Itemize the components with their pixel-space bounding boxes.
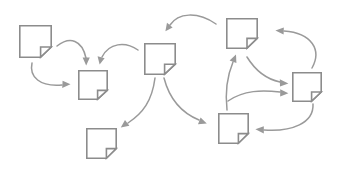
arrow-path	[102, 45, 138, 57]
page-fold-corner-icon	[238, 134, 248, 144]
page-fold-corner-icon	[165, 64, 176, 74]
document-node-7[interactable]	[87, 129, 116, 158]
arrow-doc5-to-doc6	[255, 104, 313, 133]
arrow-head-icon	[98, 56, 105, 64]
arrow-doc3-to-doc7	[121, 78, 155, 128]
arrow-doc1-to-doc2-left	[32, 63, 71, 88]
diagram-svg	[0, 0, 349, 173]
arrow-doc4-to-doc5-upper	[247, 57, 288, 86]
arrow-doc3-to-doc6	[164, 78, 207, 124]
arrow-head-icon	[83, 57, 90, 65]
page-fold-corner-icon	[247, 38, 257, 48]
arrow-head-icon	[255, 126, 263, 133]
arrow-path	[247, 57, 280, 82]
document-node-5[interactable]	[293, 73, 321, 101]
page-fold-corner-icon	[98, 90, 108, 99]
document-node-1[interactable]	[20, 26, 51, 57]
document-node-2[interactable]	[79, 71, 107, 99]
page-fold-corner-icon	[312, 92, 322, 101]
arrow-doc1-to-doc2-top	[57, 41, 90, 66]
page-fold-corner-icon	[106, 149, 116, 159]
arrow-path	[128, 78, 155, 123]
arrow-head-icon	[275, 27, 283, 34]
arrow-head-icon	[121, 120, 130, 128]
arrow-doc4-to-doc3	[165, 15, 216, 31]
arrow-doc6-to-doc5-lower	[228, 89, 288, 101]
arrow-doc5-to-doc4	[275, 27, 315, 68]
arrow-head-icon	[280, 89, 288, 96]
arrow-path	[32, 63, 62, 85]
node-layer	[20, 19, 321, 158]
diagram-canvas: Document Flow Diagram	[0, 0, 349, 173]
arrow-path	[264, 104, 313, 130]
document-page-folded-corner-icon	[145, 44, 175, 74]
arrow-path	[284, 31, 316, 68]
arrow-path	[170, 15, 216, 25]
arrow-head-icon	[198, 117, 207, 124]
arrow-path	[57, 41, 86, 58]
arrow-layer	[32, 15, 316, 133]
page-fold-corner-icon	[41, 47, 52, 57]
document-node-4[interactable]	[227, 19, 257, 48]
document-node-3[interactable]	[145, 44, 175, 74]
arrow-path	[226, 62, 233, 110]
arrow-path	[164, 78, 199, 120]
arrow-path	[228, 91, 280, 101]
arrow-doc3-to-doc2	[98, 45, 138, 65]
document-node-6[interactable]	[219, 114, 248, 143]
arrow-head-icon	[280, 79, 289, 86]
arrow-head-icon	[62, 81, 70, 88]
